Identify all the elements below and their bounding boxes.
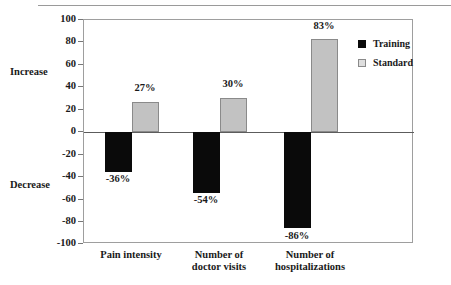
x-category-label-hospitalizations: Number of hospitalizations: [275, 249, 345, 273]
legend: Training Standard: [358, 36, 413, 74]
legend-item-training: Training: [358, 36, 413, 52]
x-category-label-pain-intensity: Pain intensity: [100, 249, 162, 261]
y-tick-mark: [78, 199, 83, 200]
zero-baseline: [84, 132, 414, 133]
y-tick-label: -100: [32, 238, 76, 249]
legend-label-training: Training: [373, 39, 410, 49]
bar-training-doctor-visits: [193, 132, 220, 193]
y-tick-label: -60: [32, 194, 76, 205]
y-tick-mark: [78, 131, 83, 132]
y-tick-mark: [78, 19, 83, 20]
y-tick-mark: [78, 41, 83, 42]
bar-training-hospitalizations: [284, 132, 311, 228]
bar-value-training-pain-intensity: -36%: [106, 174, 131, 185]
bar-value-training-doctor-visits: -54%: [194, 195, 219, 206]
bar-value-standard-hospitalizations: 83%: [314, 21, 335, 32]
legend-swatch-standard-icon: [358, 59, 366, 67]
y-tick-label: 80: [32, 36, 76, 47]
y-axis-line: [83, 19, 84, 243]
y-tick-mark: [78, 86, 83, 87]
bar-value-standard-pain-intensity: 27%: [135, 83, 156, 94]
bar-training-pain-intensity: [105, 132, 132, 172]
legend-swatch-training-icon: [358, 40, 366, 48]
y-tick-mark: [78, 154, 83, 155]
legend-label-standard: Standard: [373, 58, 413, 68]
bar-standard-pain-intensity: [132, 102, 159, 132]
bar-standard-doctor-visits: [220, 98, 247, 132]
scan-artifact-line: [38, 5, 451, 6]
x-category-label-doctor-visits: Number of doctor visits: [192, 249, 246, 273]
axis-side-label-increase: Increase: [10, 67, 48, 78]
y-tick-mark: [78, 109, 83, 110]
bar-standard-hospitalizations: [311, 39, 338, 132]
y-tick-label: -20: [32, 149, 76, 160]
bar-value-standard-doctor-visits: 30%: [223, 79, 244, 90]
y-tick-label: 40: [32, 81, 76, 92]
y-tick-mark: [78, 64, 83, 65]
y-tick-label: 100: [32, 14, 76, 25]
y-tick-mark: [78, 243, 83, 244]
y-tick-mark: [78, 221, 83, 222]
y-tick-label: -80: [32, 216, 76, 227]
y-tick-label: 0: [32, 126, 76, 137]
axis-side-label-decrease: Decrease: [10, 180, 50, 191]
bar-value-training-hospitalizations: -86%: [285, 231, 310, 242]
legend-item-standard: Standard: [358, 55, 413, 71]
y-tick-mark: [78, 176, 83, 177]
y-tick-label: 20: [32, 104, 76, 115]
